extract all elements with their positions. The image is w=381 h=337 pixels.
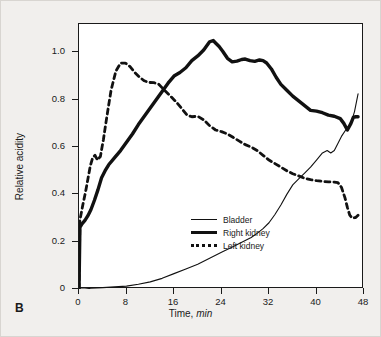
legend-item-bladder: Bladder [191, 213, 270, 226]
y-tick-label: 0.6 [23, 141, 65, 151]
series-line-bladder [79, 94, 358, 289]
figure-panel: B Relative acidity Time, min 00.20.40.60… [0, 0, 381, 337]
y-tick-label: 0.4 [23, 188, 65, 198]
y-tick-label: 0.8 [23, 94, 65, 104]
legend-label: Right kidney [223, 228, 270, 238]
x-tick-label: 8 [106, 297, 146, 307]
legend-label: Bladder [223, 215, 252, 225]
x-axis-label-prefix: Time, [169, 308, 196, 319]
y-axis-label: Relative acidity [14, 106, 25, 226]
legend-swatch-icon [191, 241, 217, 251]
x-tick-label: 32 [248, 297, 288, 307]
x-axis-label-unit: min [196, 308, 212, 319]
x-tick-label: 40 [296, 297, 336, 307]
series-line-left-kidney [79, 63, 358, 289]
legend-item-left-kidney: Left kidney [191, 239, 270, 252]
y-tick-label: 0.2 [23, 236, 65, 246]
legend-item-right-kidney: Right kidney [191, 226, 270, 239]
x-tick-label: 48 [343, 297, 381, 307]
x-tick-label: 0 [58, 297, 98, 307]
x-tick-label: 24 [201, 297, 241, 307]
legend-label: Left kidney [223, 241, 264, 251]
x-axis-label: Time, min [1, 308, 380, 319]
y-tick-label: 0 [23, 283, 65, 293]
x-tick-label: 16 [153, 297, 193, 307]
y-tick-label: 1.0 [23, 46, 65, 56]
chart-legend: BladderRight kidneyLeft kidney [191, 213, 270, 252]
legend-swatch-icon [191, 228, 217, 238]
legend-swatch-icon [191, 215, 217, 225]
